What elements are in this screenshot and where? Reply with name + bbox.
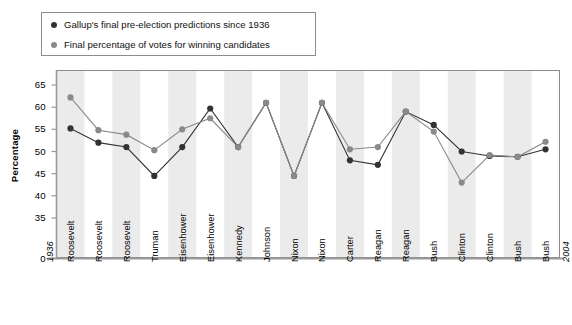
x-tick-label: Roosevelt xyxy=(95,221,104,262)
data-point xyxy=(95,127,101,133)
x-tick-label: Clinton xyxy=(486,233,495,262)
data-point xyxy=(459,179,465,185)
data-point xyxy=(431,122,437,128)
x-tick-label: Roosevelt xyxy=(123,221,132,262)
x-tick-label: Eisenhower xyxy=(207,213,216,262)
band xyxy=(504,71,532,259)
data-point xyxy=(263,100,269,106)
x-tick-label: Truman xyxy=(151,230,160,262)
data-point xyxy=(487,152,493,158)
x-tick-label: Reagan xyxy=(374,229,383,262)
x-tick-label: Reagan xyxy=(402,229,411,262)
data-point xyxy=(179,126,185,132)
x-tick-label: Johnson xyxy=(263,227,272,262)
data-point xyxy=(514,154,520,160)
data-point xyxy=(179,144,185,150)
band xyxy=(336,71,364,259)
x-tick-label: Carter xyxy=(346,236,355,262)
y-tick-label: 65 xyxy=(24,80,46,90)
data-point xyxy=(375,144,381,150)
data-point xyxy=(347,146,353,152)
data-point xyxy=(291,173,297,179)
data-point xyxy=(207,115,213,121)
data-point xyxy=(542,139,548,145)
x-tick-label: Bush xyxy=(514,241,523,262)
x-tick-label: Nixon xyxy=(291,238,300,262)
x-tick-label: Kennedy xyxy=(235,225,244,262)
data-point xyxy=(347,157,353,163)
y-tick-label: 55 xyxy=(24,124,46,134)
data-point xyxy=(95,140,101,146)
x-tick-label: Clinton xyxy=(458,233,467,262)
x-tick-label: Roosevelt xyxy=(67,221,76,262)
y-tick-label: 45 xyxy=(24,169,46,179)
y-tick-label: 35 xyxy=(24,213,46,223)
x-axis-start-year: 1936 xyxy=(46,241,55,262)
y-tick-label: 50 xyxy=(24,147,46,157)
x-axis-end-year: 2004 xyxy=(562,241,571,262)
data-point xyxy=(151,173,157,179)
data-point xyxy=(207,105,213,111)
data-point xyxy=(67,125,73,131)
x-tick-label: Eisenhower xyxy=(179,213,188,262)
data-point xyxy=(431,128,437,134)
x-tick-label: Bush xyxy=(542,241,551,262)
y-tick-label: 40 xyxy=(24,191,46,201)
x-tick-label: Bush xyxy=(430,241,439,262)
data-point xyxy=(151,147,157,153)
data-point xyxy=(123,144,129,150)
y-tick-label: 0 xyxy=(24,254,46,264)
data-point xyxy=(459,148,465,154)
chart-container: Gallup's final pre-election predictions … xyxy=(0,0,572,325)
plot-svg xyxy=(0,0,572,325)
data-point xyxy=(235,144,241,150)
data-point xyxy=(67,94,73,100)
data-point xyxy=(403,109,409,115)
data-point xyxy=(542,146,548,152)
data-point xyxy=(123,132,129,138)
x-tick-label: Nixon xyxy=(318,238,327,262)
y-tick-label: 60 xyxy=(24,102,46,112)
data-point xyxy=(319,100,325,106)
data-point xyxy=(375,162,381,168)
band xyxy=(280,71,308,259)
